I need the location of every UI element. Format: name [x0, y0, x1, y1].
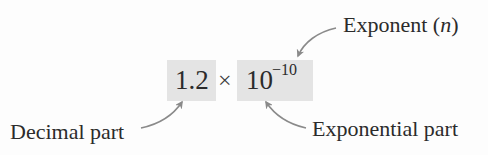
exponent-label-close-paren: )	[451, 12, 458, 37]
exponent-base: 10	[246, 67, 273, 94]
exponent-label-open-paren: (	[427, 12, 440, 37]
decimal-part-label: Decimal part	[10, 121, 124, 143]
exponential-arrow-icon	[266, 102, 306, 128]
decimal-arrow-icon	[141, 102, 182, 128]
exponent-arrow-icon	[298, 28, 336, 56]
exponent-label-variable: n	[440, 12, 451, 37]
decimal-part-value: 1.2	[175, 67, 209, 94]
exponential-part-label: Exponential part	[312, 118, 458, 140]
exponent-value: −10	[272, 62, 297, 78]
times-symbol: ×	[218, 68, 232, 92]
exponent-label-text: Exponent	[343, 12, 427, 37]
exponent-label: Exponent (n)	[343, 14, 458, 36]
scientific-notation-diagram: 1.2 × 10 −10 Exponent (n) Decimal part E…	[0, 0, 488, 155]
